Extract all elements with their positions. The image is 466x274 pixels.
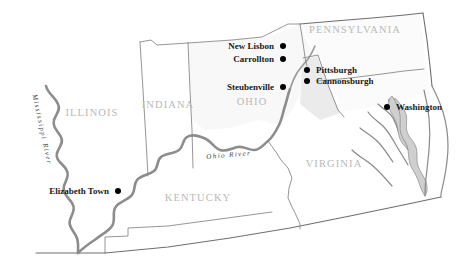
state-label-ohio: OHIO	[237, 96, 268, 107]
indiana-north-boundary	[140, 40, 188, 45]
city-dot-cannonsburgh	[304, 78, 310, 84]
ohio-land-shade	[188, 24, 312, 130]
kentucky-virginia-boundary	[268, 141, 300, 229]
city-dot-carrollton	[280, 56, 286, 62]
city-label-new-lisbon: New Lisbon	[228, 41, 274, 51]
city-label-pittsburgh: Pittsburgh	[316, 65, 357, 75]
state-label-virginia: VIRGINIA	[306, 158, 363, 169]
city-label-elizabeth-town: Elizabeth Town	[49, 186, 109, 196]
river-label-ohio: Ohio River	[206, 149, 251, 161]
city-dot-elizabeth-town	[115, 188, 121, 194]
city-label-steubenville: Steubenville	[227, 82, 274, 92]
map-canvas: ILLINOIS INDIANA OHIO PENNSYLVANIA VIRGI…	[0, 0, 466, 274]
southern-frontier	[105, 197, 441, 253]
city-label-carrollton: Carrollton	[233, 54, 274, 64]
city-dot-new-lisbon	[280, 43, 286, 49]
river-label-mississippi: Mississippi River	[30, 92, 53, 165]
city-dot-steubenville	[280, 84, 286, 90]
state-label-kentucky: KENTUCKY	[165, 192, 232, 203]
city-elizabeth-town[interactable]: Elizabeth Town	[49, 186, 121, 196]
city-label-washington: Washington	[396, 102, 442, 112]
state-label-pennsylvania: PENNSYLVANIA	[309, 24, 401, 35]
city-label-cannonsburgh: Cannonsburgh	[316, 76, 374, 86]
state-label-illinois: ILLINOIS	[65, 107, 118, 118]
historical-map: ILLINOIS INDIANA OHIO PENNSYLVANIA VIRGI…	[0, 0, 466, 274]
kentucky-south-step	[105, 212, 272, 253]
city-dot-washington	[384, 104, 390, 110]
city-dot-pittsburgh	[304, 67, 310, 73]
state-label-indiana: INDIANA	[142, 99, 195, 110]
